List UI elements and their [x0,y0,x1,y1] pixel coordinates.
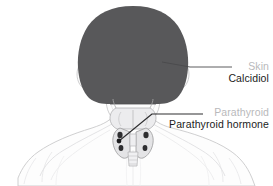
callout-skin: Skin Calcidiol [228,60,269,84]
parathyroid-leader-dot [117,139,122,144]
callout-skin-organ-label: Skin [228,60,269,72]
head-group [78,6,188,104]
parathyroid-inferior-right [143,145,148,151]
thyroid-isthmus [130,134,136,146]
callout-parathyroid-organ-label: Parathyroid [169,106,269,118]
anatomy-figure: Skin Calcidiol Parathyroid Parathyroid h… [0,0,273,186]
hair-shape [78,6,188,104]
parathyroid-superior-right [143,132,148,138]
parathyroid-superior-left [117,132,122,138]
anatomy-illustration [0,0,273,186]
callout-parathyroid: Parathyroid Parathyroid hormone [169,106,269,130]
callout-parathyroid-hormone-label: Parathyroid hormone [169,118,269,130]
callout-skin-hormone-label: Calcidiol [228,72,269,84]
parathyroid-inferior-left [119,145,124,151]
